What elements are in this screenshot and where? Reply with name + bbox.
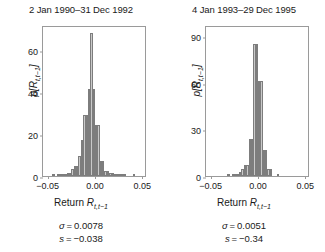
stat-skew-right: s = −0.34 bbox=[163, 232, 325, 245]
y-tick-mark bbox=[40, 94, 43, 95]
skew-symbol: s bbox=[59, 233, 64, 244]
x-tick-mark bbox=[142, 176, 143, 179]
histogram-bar bbox=[52, 174, 54, 176]
panel-title-left: 2 Jan 1990–31 Dec 1992 bbox=[0, 4, 162, 15]
x-axis-label-subscript: t,t−1 bbox=[257, 203, 271, 210]
x-axis-label-r: R bbox=[250, 197, 257, 208]
x-tick-mark bbox=[211, 176, 212, 179]
x-axis-label-text: Return bbox=[217, 197, 250, 208]
panel-right: 4 Jan 1993–29 Dec 1995 p[Rt,t−1] 0306090… bbox=[163, 0, 325, 252]
y-tick-label: 20 bbox=[5, 131, 43, 141]
sigma-symbol: σ bbox=[59, 220, 65, 231]
y-tick-label: 60 bbox=[168, 80, 206, 90]
skew-value: −0.34 bbox=[239, 233, 263, 244]
x-tick-label: 0.00 bbox=[86, 181, 104, 191]
x-tick-label: 0.05 bbox=[297, 181, 315, 191]
y-tick-mark bbox=[203, 178, 206, 179]
y-tick-mark bbox=[203, 37, 206, 38]
x-axis-label-left: Return Rt,t−1 bbox=[0, 197, 162, 210]
y-axis-label-p: p bbox=[191, 91, 202, 97]
stats-left: σ = 0.0078 s = −0.038 bbox=[0, 219, 162, 245]
panel-left: 2 Jan 1990–31 Dec 1992 p[Rt,t−1] 0204060… bbox=[0, 0, 162, 252]
panel-title-right: 4 Jan 1993–29 Dec 1995 bbox=[163, 4, 325, 15]
x-tick-label: −0.05 bbox=[199, 181, 222, 191]
sigma-value: 0.0078 bbox=[74, 220, 103, 231]
y-tick-mark bbox=[203, 131, 206, 132]
histogram-bar bbox=[270, 169, 272, 176]
x-tick-label: 0.00 bbox=[249, 181, 267, 191]
plot-frame-left: 0204060 −0.050.000.05 bbox=[42, 26, 146, 177]
sigma-symbol: σ bbox=[222, 220, 228, 231]
x-axis-label-text: Return bbox=[54, 197, 87, 208]
y-axis-label-close: ] bbox=[191, 64, 202, 67]
plot-frame-right: 0306090 −0.050.000.05 bbox=[205, 26, 309, 177]
y-tick-label: 60 bbox=[5, 47, 43, 57]
y-tick-mark bbox=[40, 178, 43, 179]
histogram-bar bbox=[133, 174, 135, 176]
stat-skew-left: s = −0.038 bbox=[0, 232, 162, 245]
x-tick-mark bbox=[48, 176, 49, 179]
y-axis-label-close: ] bbox=[28, 64, 39, 67]
y-tick-mark bbox=[203, 84, 206, 85]
y-tick-label: 30 bbox=[168, 126, 206, 136]
histogram-bar bbox=[277, 174, 279, 176]
x-tick-label: 0.05 bbox=[134, 181, 152, 191]
x-axis-label-subscript: t,t−1 bbox=[94, 203, 108, 210]
histogram-bar bbox=[123, 174, 125, 176]
y-tick-mark bbox=[40, 52, 43, 53]
sigma-value: 0.0051 bbox=[237, 220, 266, 231]
skew-symbol: s bbox=[225, 233, 230, 244]
x-axis-label-right: Return Rt,t−1 bbox=[163, 197, 325, 210]
stat-sigma-left: σ = 0.0078 bbox=[0, 219, 162, 232]
y-axis-label-subscript: t,t−1 bbox=[34, 67, 41, 81]
x-tick-mark bbox=[95, 176, 96, 179]
x-tick-mark bbox=[305, 176, 306, 179]
stats-right: σ = 0.0051 s = −0.34 bbox=[163, 219, 325, 245]
stat-sigma-right: σ = 0.0051 bbox=[163, 219, 325, 232]
y-tick-mark bbox=[40, 136, 43, 137]
skew-value: −0.038 bbox=[73, 233, 102, 244]
bars-left bbox=[43, 27, 145, 176]
x-tick-mark bbox=[258, 176, 259, 179]
histogram-bar bbox=[227, 174, 229, 176]
x-axis-label-r: R bbox=[87, 197, 94, 208]
x-tick-label: −0.05 bbox=[36, 181, 59, 191]
y-tick-label: 40 bbox=[5, 89, 43, 99]
y-tick-label: 90 bbox=[168, 33, 206, 43]
bars-right bbox=[206, 27, 308, 176]
figure-histogram-pair: 2 Jan 1990–31 Dec 1992 p[Rt,t−1] 0204060… bbox=[0, 0, 325, 252]
